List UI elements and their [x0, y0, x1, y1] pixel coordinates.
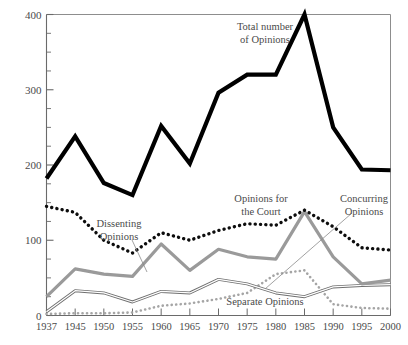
annotation-line: Dissenting	[97, 218, 143, 229]
annotation-separate-opinions: Separate Opinions	[226, 296, 303, 307]
chart-container: 0100200300400193719451950195519601965197…	[0, 0, 408, 345]
opinions-line-chart: 0100200300400193719451950195519601965197…	[0, 0, 408, 345]
y-tick-label: 200	[25, 159, 42, 171]
series-concurring-opinions	[47, 279, 391, 311]
annotation-opinions-for-the-court: Opinions forthe Court	[234, 193, 288, 217]
x-tick-label: 1955	[122, 321, 143, 332]
x-tick-label: 2000	[380, 321, 401, 332]
x-tick-label: 1945	[65, 321, 86, 332]
x-tick-label: 1975	[237, 321, 258, 332]
x-tick-label: 1960	[151, 321, 172, 332]
annotation-line: Opinions	[100, 231, 139, 242]
annotation-concurring-opinions: ConcurringOpinions	[340, 193, 389, 217]
axes-frame	[47, 15, 391, 316]
y-axis-ticks	[47, 15, 54, 316]
annotation-line: Opinions	[345, 206, 384, 217]
annotation-line: Opinions for	[234, 193, 288, 204]
series-total-number-of-opinions	[47, 15, 391, 196]
x-axis-ticks	[47, 309, 391, 316]
x-tick-label: 1965	[179, 321, 200, 332]
x-axis-tick-labels: 1937194519501955196019651970197519801985…	[36, 321, 401, 332]
x-tick-label: 1970	[208, 321, 229, 332]
x-tick-label: 1937	[36, 321, 57, 332]
annotation-line: the Court	[241, 206, 280, 217]
annotation-dissenting-opinions: DissentingOpinions	[97, 218, 143, 242]
y-tick-label: 400	[25, 9, 42, 21]
x-tick-label: 1980	[265, 321, 286, 332]
x-tick-label: 1995	[351, 321, 372, 332]
annotation-line: of Opinions	[240, 34, 290, 45]
x-tick-label: 1950	[93, 321, 114, 332]
x-tick-label: 1985	[294, 321, 315, 332]
annotations: Total numberof OpinionsDissentingOpinion…	[97, 21, 389, 307]
annotation-line: Separate Opinions	[226, 296, 303, 307]
annotation-total-opinions: Total numberof Opinions	[237, 21, 294, 45]
series-opinions-for-the-court	[47, 206, 391, 253]
y-axis-tick-labels: 0100200300400	[25, 9, 42, 322]
annotation-leader-lines	[132, 213, 352, 289]
annotation-line: Concurring	[340, 193, 389, 204]
y-tick-label: 100	[25, 234, 42, 246]
x-tick-label: 1990	[323, 321, 344, 332]
y-tick-label: 300	[25, 84, 42, 96]
annotation-line: Total number	[237, 21, 294, 32]
